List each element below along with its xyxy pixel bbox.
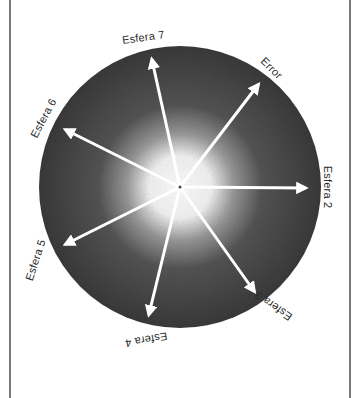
label-esfera-2: Esfera 2 xyxy=(322,166,334,209)
center-point xyxy=(179,186,182,189)
arrow-esfera-2 xyxy=(180,187,305,188)
sphere-diagram xyxy=(0,0,357,398)
